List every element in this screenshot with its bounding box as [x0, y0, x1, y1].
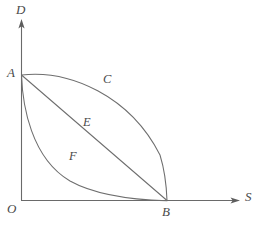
figure-svg: [0, 0, 258, 225]
curve-c-label: C: [103, 73, 111, 86]
figure-canvas: D S O A B C E F: [0, 0, 258, 225]
y-axis-label: D: [16, 3, 25, 16]
origin-label: O: [7, 202, 16, 215]
point-b-label: B: [162, 205, 170, 218]
curve-f-label: F: [69, 150, 77, 163]
line-e-path: [22, 75, 168, 201]
line-e-label: E: [83, 116, 91, 129]
point-a-label: A: [7, 66, 15, 79]
x-axis-label: S: [245, 190, 252, 203]
